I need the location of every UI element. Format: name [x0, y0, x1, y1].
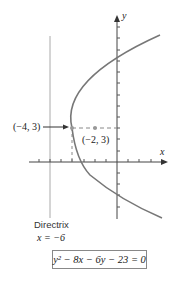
vertex-point [70, 126, 74, 130]
x-axis-arrow-icon [161, 159, 168, 165]
arrowhead-icon [63, 125, 69, 130]
vertex-label: (−4, 3) [13, 121, 40, 132]
parabola-equation: y² − 8x − 6y − 23 = 0 [53, 254, 146, 265]
parabola-equation-box: y² − 8x − 6y − 23 = 0 [52, 250, 147, 269]
y-axis-arrow-icon [114, 15, 120, 22]
directrix-equation: x = −6 [37, 232, 65, 243]
x-axis-label: x [160, 146, 164, 157]
y-axis-label: y [122, 10, 126, 21]
focus-label: (−2, 3) [82, 134, 109, 145]
directrix-title: Directrix [34, 219, 69, 230]
focus-point [93, 126, 97, 130]
parabola-curve [71, 35, 162, 218]
